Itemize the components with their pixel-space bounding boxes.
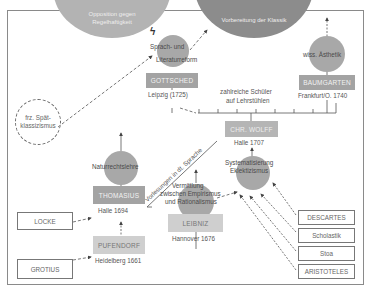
scholastik-box: Scholastik — [298, 228, 355, 243]
thomasius-name: THOMASIUS — [99, 192, 139, 199]
wolff-place: Halle 1707 — [234, 139, 264, 146]
spaetklassizismus-circle: frz. Spät- klassizismus — [15, 99, 61, 145]
wolff-name: CHR. WOLFF — [230, 126, 272, 133]
pufendorf-box: PUFENDORF — [93, 236, 145, 254]
descartes-label: DESCARTES — [307, 214, 345, 221]
baumgarten-name: BAUMGARTEN — [303, 79, 351, 86]
grotius-label: GROTIUS — [31, 266, 60, 273]
baumgarten-place: Frankfurt/O. 1740 — [298, 92, 347, 99]
sprach-label-1: Sprach- und — [150, 43, 184, 51]
stoa-box: Stoa — [298, 246, 355, 261]
sprach-label-2: Literaturreform — [156, 56, 197, 64]
schueler-note-2: auf Lehrstühlen — [226, 96, 269, 105]
aristoteles-box: ARISTOTELES — [298, 264, 355, 279]
aristoteles-label: ARISTOTELES — [305, 268, 348, 275]
naturrecht-label: Naturrechtslehre — [92, 163, 139, 171]
wolff-box: CHR. WOLFF — [225, 121, 278, 137]
schueler-note-1: zahlreiche Schüler — [220, 87, 272, 96]
scholastik-label: Scholastik — [312, 232, 341, 239]
gottsched-place: Leipzig (1725) — [148, 91, 188, 98]
thomasius-place: Halle 1694 — [98, 207, 128, 214]
leibniz-box: LEIBNIZ — [168, 214, 223, 232]
spaetklassizismus-label-1: frz. Spät- — [20, 114, 55, 122]
vermittlung-label-3: und Rationalismus — [165, 198, 217, 206]
aesthetik-label: wiss. Ästhetik — [303, 51, 341, 59]
descartes-box: DESCARTES — [298, 210, 355, 225]
system-label-2: Eklektizismus — [230, 167, 268, 175]
pufendorf-name: PUFENDORF — [98, 242, 140, 249]
grotius-box: GROTIUS — [17, 259, 73, 279]
baumgarten-box: BAUMGARTEN — [299, 75, 355, 90]
system-label-1: Systematisierung — [225, 159, 273, 167]
gottsched-name: GOTTSCHED — [151, 77, 194, 84]
locke-box: LOCKE — [17, 212, 73, 230]
stoa-label: Stoa — [320, 250, 333, 257]
thomasius-box: THOMASIUS — [93, 186, 145, 204]
leibniz-place: Hannover 1676 — [172, 235, 215, 242]
vermittlung-label-1: Vermittlung — [172, 182, 204, 190]
spaetklassizismus-label-2: klassizismus — [20, 122, 55, 130]
vermittlung-label-2: zwischen Empirismus — [160, 190, 221, 198]
leibniz-name: LEIBNIZ — [183, 220, 209, 227]
gottsched-box: GOTTSCHED — [146, 73, 198, 88]
pufendorf-place: Heidelberg 1661 — [95, 257, 141, 264]
locke-label: LOCKE — [34, 218, 55, 225]
conflict-icon: ϟ — [150, 27, 155, 36]
